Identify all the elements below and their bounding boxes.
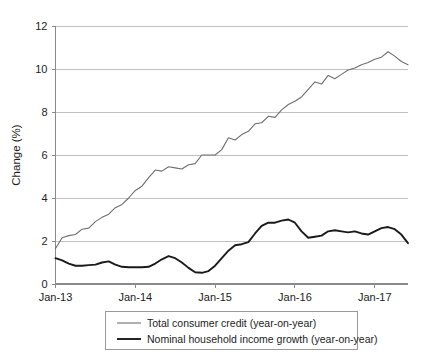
y-tick-label: 2: [41, 235, 47, 247]
legend: Total consumer credit (year-on-year)Nomi…: [105, 311, 378, 349]
x-tick-label: Jan-14: [118, 291, 152, 303]
y-tick-label: 6: [41, 149, 47, 161]
y-axis-title: Change (%): [10, 124, 22, 186]
series-line-1: [56, 220, 409, 273]
x-tick-label: Jan-15: [198, 291, 232, 303]
y-axis-ticks: 024681012: [35, 20, 55, 290]
y-tick-label: 4: [41, 192, 47, 204]
x-axis-ticks: Jan-13Jan-14Jan-15Jan-16Jan-17: [39, 284, 392, 303]
y-tick-label: 0: [41, 278, 47, 290]
legend-label-1: Nominal household income growth (year-on…: [147, 333, 378, 345]
legend-label-0: Total consumer credit (year-on-year): [147, 317, 316, 329]
line-chart: 024681012 Jan-13Jan-14Jan-15Jan-16Jan-17…: [0, 0, 430, 364]
chart-figure: 024681012 Jan-13Jan-14Jan-15Jan-16Jan-17…: [0, 0, 430, 364]
x-tick-label: Jan-16: [278, 291, 312, 303]
gridlines: [56, 26, 409, 241]
x-tick-label: Jan-17: [358, 291, 392, 303]
series-line-0: [56, 52, 409, 249]
y-tick-label: 10: [35, 63, 47, 75]
x-tick-label: Jan-13: [39, 291, 73, 303]
y-tick-label: 12: [35, 20, 47, 32]
series-paths: [56, 52, 409, 273]
y-tick-label: 8: [41, 106, 47, 118]
